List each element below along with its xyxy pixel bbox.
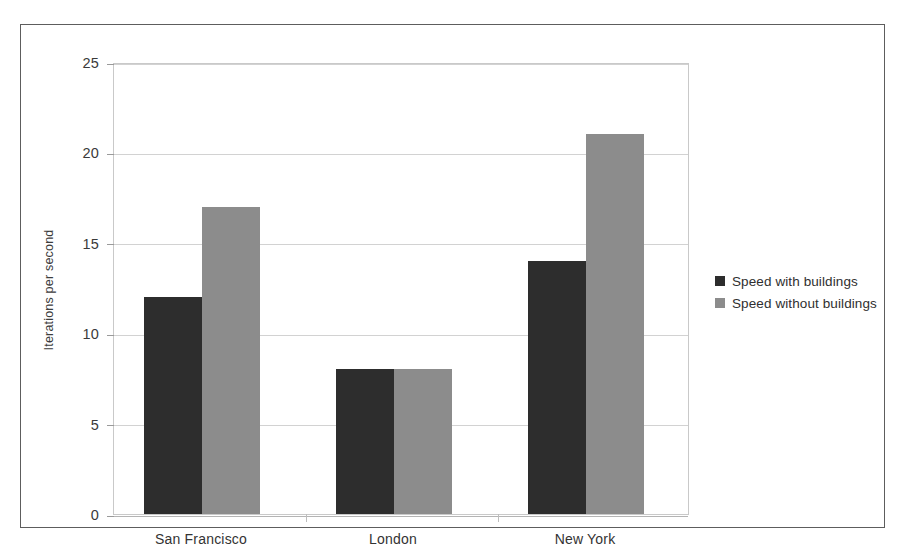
bar — [394, 369, 452, 514]
bar — [202, 207, 260, 514]
bar — [144, 297, 202, 514]
plot-area — [113, 63, 689, 515]
x-axis-separator — [498, 514, 499, 522]
y-tick-label-5: 5 — [91, 417, 99, 433]
gridline-25 — [114, 64, 688, 65]
legend-label: Speed without buildings — [732, 296, 877, 311]
x-axis-separator — [306, 514, 307, 522]
legend-item: Speed with buildings — [715, 271, 877, 291]
bar — [586, 134, 644, 514]
legend-swatch-icon — [715, 298, 725, 308]
y-tick-15 — [107, 244, 114, 245]
y-tick-0 — [107, 516, 114, 517]
y-tick-label-10: 10 — [82, 326, 99, 342]
y-tick-20 — [107, 154, 114, 155]
legend-item: Speed without buildings — [715, 293, 877, 313]
y-tick-25 — [107, 64, 114, 65]
y-tick-10 — [107, 335, 114, 336]
y-tick-label-15: 15 — [82, 236, 99, 252]
legend-label: Speed with buildings — [732, 274, 858, 289]
chart-frame: Iterations per second Speed with buildin… — [20, 24, 885, 528]
bar — [528, 261, 586, 514]
x-axis-category-label: San Francisco — [155, 531, 247, 547]
bar — [336, 369, 394, 514]
chart-legend: Speed with buildingsSpeed without buildi… — [715, 271, 877, 315]
gridline-0 — [114, 516, 688, 517]
legend-swatch-icon — [715, 276, 725, 286]
y-tick-5 — [107, 425, 114, 426]
y-axis-label: Iterations per second — [42, 230, 56, 351]
y-tick-label-25: 25 — [82, 55, 99, 71]
y-tick-label-20: 20 — [82, 145, 99, 161]
y-tick-label-0: 0 — [91, 507, 99, 523]
x-axis-category-label: London — [369, 531, 417, 547]
x-axis-category-label: New York — [555, 531, 616, 547]
